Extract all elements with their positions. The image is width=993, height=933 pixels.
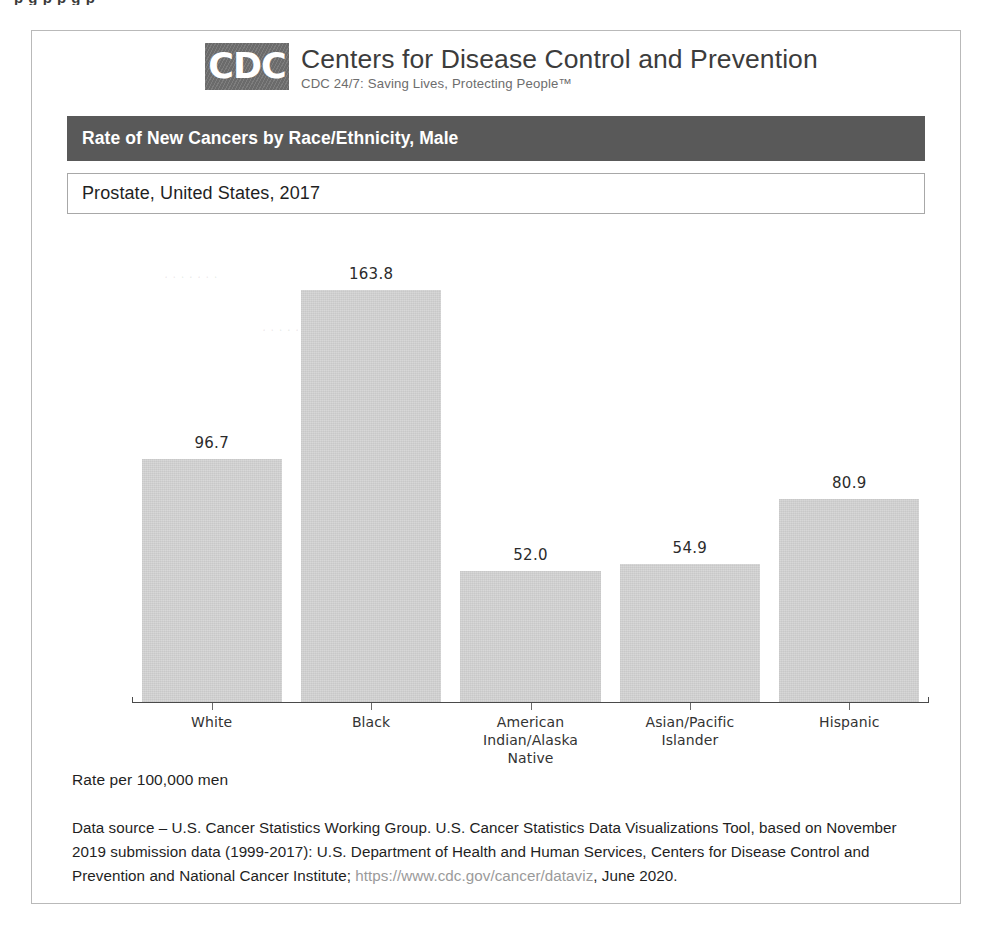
bar-chart: . . . . . . . . . . . . . . . . . . 96.7… [32,224,960,777]
bar-group-black: 163.8 [291,224,450,702]
x-axis-label-american-indian-alaska-native: American Indian/Alaska Native [451,713,610,767]
x-axis-label-asian-pacific-islander: Asian/Pacific Islander [610,713,769,767]
chart-subtitle-box: Prostate, United States, 2017 [67,173,925,214]
x-axis-tick [451,703,610,710]
bar-group-white: 96.7 [132,224,291,702]
data-source-note: Data source – U.S. Cancer Statistics Wor… [72,816,927,888]
x-axis-tick [291,703,450,710]
x-axis-ticks [132,703,929,710]
bar-group-asian-pacific-islander: 54.9 [610,224,769,702]
bar-black [301,290,441,702]
brand-text-block: Centers for Disease Control and Preventi… [301,43,818,91]
bar-white [142,459,282,702]
bar-group-american-indian-alaska-native: 52.0 [451,224,610,702]
x-axis-label-white: White [132,713,291,767]
bar-american-indian-alaska-native [460,571,600,702]
x-axis-tick [610,703,769,710]
brand-tagline: CDC 24/7: Saving Lives, Protecting Peopl… [301,76,818,91]
bar-asian-pacific-islander [620,564,760,702]
cdc-brand-header: CDC Centers for Disease Control and Prev… [205,43,818,91]
bar-value-label: 163.8 [349,265,393,283]
x-axis-category-labels: White Black American Indian/Alaska Nativ… [132,713,929,767]
bar-hispanic [779,499,919,702]
bar-value-label: 54.9 [673,539,708,557]
cdc-logo-icon: CDC [205,43,289,90]
bar-value-label: 96.7 [194,434,229,452]
page-title: Rate of New Cancers by Race/Ethnicity, M… [67,128,458,149]
clipped-scan-line: p g p p g p [14,0,714,5]
x-axis-tick [132,703,291,710]
x-axis-label-black: Black [291,713,450,767]
organization-name: Centers for Disease Control and Preventi… [301,44,818,74]
bar-value-label: 80.9 [832,474,867,492]
data-source-date: , June 2020. [593,867,677,884]
bar-series: 96.7 163.8 52.0 54.9 80.9 [132,224,929,702]
scanned-page: CDC Centers for Disease Control and Prev… [31,30,961,904]
chart-subtitle: Prostate, United States, 2017 [68,183,320,204]
x-axis-tick [770,703,929,710]
bar-value-label: 52.0 [513,546,548,564]
data-source-url[interactable]: https://www.cdc.gov/cancer/dataviz [355,867,593,884]
bar-group-hispanic: 80.9 [770,224,929,702]
x-axis-label-hispanic: Hispanic [770,713,929,767]
rate-note: Rate per 100,000 men [72,771,228,789]
chart-title-bar: Rate of New Cancers by Race/Ethnicity, M… [67,116,925,161]
